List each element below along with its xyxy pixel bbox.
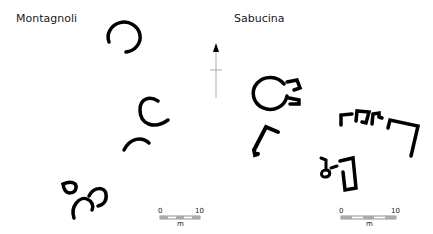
building-sabucina-3 — [372, 113, 382, 124]
building-sabucina-small — [321, 158, 337, 177]
hut-montagnoli-2 — [140, 98, 168, 125]
hut-montagnoli-4 — [63, 182, 76, 193]
scale-start-sabucina: 0 — [339, 207, 343, 215]
building-sabucina-2 — [356, 111, 369, 123]
building-sabucina-rect — [340, 158, 356, 190]
hut-montagnoli-5 — [73, 198, 93, 218]
scale-unit-sabucina: m — [366, 220, 373, 228]
wall-sabucina-l — [254, 127, 278, 155]
scale-start-montagnoli: 0 — [158, 207, 162, 215]
hut-sabucina-annex — [287, 80, 300, 104]
scale-bar-sabucina — [341, 216, 396, 219]
hut-montagnoli-3 — [124, 139, 149, 150]
scale-end-montagnoli: 10 — [195, 207, 204, 215]
scale-end-sabucina: 10 — [391, 207, 400, 215]
scale-bar-montagnoli — [160, 216, 200, 219]
north-arrow-icon — [210, 43, 222, 98]
site-plans — [0, 0, 433, 234]
building-sabucina-1 — [341, 114, 352, 125]
hut-montagnoli-1 — [108, 22, 140, 52]
scale-unit-montagnoli: m — [177, 220, 184, 228]
hut-sabucina-circle — [253, 77, 287, 109]
building-sabucina-4 — [388, 120, 418, 156]
